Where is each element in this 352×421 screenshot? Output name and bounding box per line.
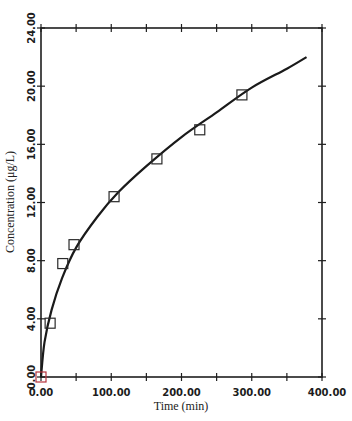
- chart: 0.004.008.0012.0016.0020.0024.00 0.00100…: [0, 0, 352, 421]
- y-tick-label: 12.00: [26, 187, 37, 219]
- plot-frame: [41, 28, 322, 377]
- y-tick-label: 20.00: [26, 70, 37, 102]
- y-tick-labels: 0.004.008.0012.0016.0020.0024.00: [26, 12, 37, 389]
- y-tick-label: 0.00: [26, 365, 37, 390]
- y-axis-title: Concentration (μg/L): [3, 151, 17, 253]
- data-points: [36, 90, 247, 382]
- y-tick-label: 24.00: [26, 12, 37, 44]
- x-tick-label: 0.00: [29, 387, 54, 398]
- x-tick-labels: 0.00100.00200.00300.00400.00: [29, 387, 347, 398]
- y-tick-label: 4.00: [26, 306, 37, 331]
- x-tick-label: 200.00: [162, 387, 201, 398]
- x-tick-label: 300.00: [232, 387, 271, 398]
- x-tick-label: 400.00: [308, 387, 347, 398]
- axis-ticks: [37, 24, 326, 381]
- fitted-curve: [41, 57, 307, 377]
- x-tick-label: 100.00: [92, 387, 131, 398]
- y-tick-label: 16.00: [26, 128, 37, 160]
- x-axis-title: Time (min): [154, 399, 209, 413]
- y-tick-label: 8.00: [26, 248, 37, 273]
